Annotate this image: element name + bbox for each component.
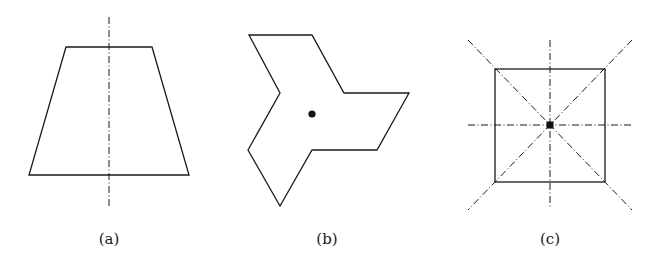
pinwheel-shape <box>248 35 409 206</box>
panel-b-label: (b) <box>316 230 337 248</box>
panel-a-label: (a) <box>99 230 120 248</box>
panel-c-label: (c) <box>540 230 560 248</box>
panel-a <box>29 17 189 208</box>
rotation-center-point <box>547 122 554 129</box>
panel-b <box>248 35 409 206</box>
rotation-center-point <box>308 110 315 117</box>
panel-c <box>468 40 632 210</box>
